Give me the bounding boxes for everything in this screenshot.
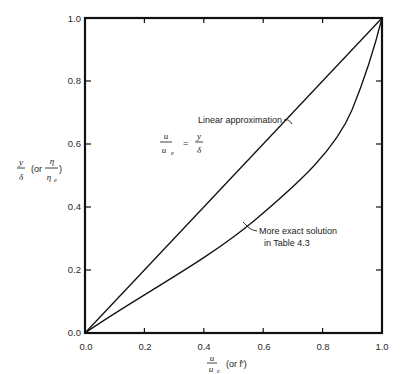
eq-lhs-numerator: u	[164, 131, 169, 141]
eq-lhs-denominator: u	[162, 145, 167, 155]
x-tick-label: 0.4	[197, 341, 210, 352]
linear-approximation-line	[85, 18, 382, 333]
y-axis-eta-subscript: e	[54, 176, 57, 183]
eq-equals: =	[183, 138, 188, 148]
x-tick-label: 0.6	[257, 341, 270, 352]
x-tick-labels: 0.0 0.2 0.4 0.6 0.8 1.0	[79, 341, 388, 352]
x-tick-label: 0.2	[138, 341, 151, 352]
y-axis-eta-numerator: η	[50, 156, 55, 166]
y-axis-close-paren: )	[59, 164, 62, 174]
y-tick-label: 0.8	[68, 75, 81, 86]
x-tick-label: 1.0	[375, 341, 388, 352]
eq-lhs-subscript: e	[171, 149, 174, 156]
y-tick-label: 0.2	[68, 264, 81, 275]
y-axis-numerator: y	[18, 157, 23, 167]
y-axis-or-text: (or	[31, 164, 42, 174]
x-axis-subscript: e	[217, 368, 220, 374]
eq-rhs-denominator: δ	[197, 145, 202, 155]
x-axis-numerator: u	[210, 353, 215, 363]
y-tick-labels: 0.0 0.2 0.4 0.6 0.8 1.0	[68, 13, 81, 338]
y-tick-label: 0.6	[68, 138, 81, 149]
y-axis-denominator: δ	[19, 172, 24, 182]
y-axis-eta-denominator: η	[47, 172, 52, 182]
x-tick-label: 0.0	[79, 341, 92, 352]
y-tick-label: 0.4	[68, 201, 81, 212]
x-axis-denominator: u	[209, 364, 214, 374]
x-axis-label: u u e (or f′)	[207, 353, 247, 374]
eq-rhs-numerator: y	[196, 131, 201, 141]
y-tick-label: 1.0	[68, 13, 81, 24]
exact-solution-label-line1: More exact solution	[259, 226, 337, 236]
linear-equation: u u e = y δ	[160, 131, 203, 156]
exact-solution-label-line2: in Table 4.3	[264, 238, 310, 248]
y-axis-label: y δ (or η η e )	[17, 156, 62, 183]
y-tick-label: 0.0	[68, 327, 81, 338]
x-tick-label: 0.8	[316, 341, 329, 352]
x-axis-or-text: (or f′)	[226, 359, 247, 369]
linear-approximation-label: Linear approximation	[198, 115, 282, 125]
boundary-layer-profile-chart: 0.0 0.2 0.4 0.6 0.8 1.0 0.0 0.2 0.4 0.6 …	[0, 0, 400, 374]
